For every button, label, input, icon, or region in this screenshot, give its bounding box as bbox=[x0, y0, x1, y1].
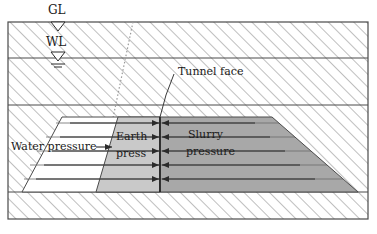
water-pressure-label: Water pressure bbox=[11, 140, 97, 153]
slurry-pressure-label-line1: Slurry bbox=[188, 128, 223, 141]
ground-level-label: GL bbox=[48, 3, 66, 17]
figure-canvas: GL WL Tunnel face Water pressure Earth p… bbox=[0, 0, 377, 234]
slurry-pressure-label-line2: pressure bbox=[186, 145, 235, 158]
earth-pressure-label-line1: Earth bbox=[116, 130, 147, 143]
water-level-label: WL bbox=[46, 35, 66, 49]
earth-pressure-label-line2: press bbox=[116, 147, 146, 160]
tunnel-face-label: Tunnel face bbox=[178, 65, 243, 78]
